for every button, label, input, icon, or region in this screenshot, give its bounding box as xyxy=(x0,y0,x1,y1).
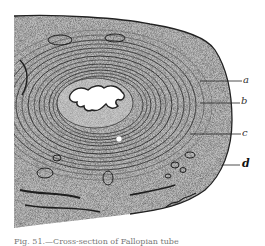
tissue-body xyxy=(14,15,232,228)
fallopian-tube-cross-section xyxy=(0,0,265,246)
figure-caption: Fig. 51.—Cross-section of Fallopian tube xyxy=(14,238,259,246)
label-d: d xyxy=(242,158,250,169)
label-b: b xyxy=(241,96,247,106)
label-c: c xyxy=(242,128,248,138)
vessel-spot xyxy=(116,136,122,142)
label-a: a xyxy=(243,75,249,85)
